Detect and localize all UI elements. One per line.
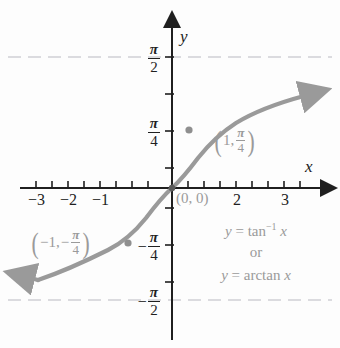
equation-argument: x [284, 267, 291, 283]
equation-argument: x [280, 223, 287, 239]
point-y-numerator: π [236, 126, 245, 141]
x-tick-label-neg2: −2 [60, 192, 77, 208]
y-tick-label-pi-over-4: π 4 [126, 116, 160, 150]
point-label-neg1-neg-pi-over-4: ( −1, − π 4 ) [30, 228, 91, 257]
equation-lhs: y [221, 267, 228, 283]
equation-equals: = [232, 267, 240, 283]
equation-function-name: arctan [244, 267, 281, 283]
marker-point-origin [169, 185, 175, 191]
x-tick-label-3: 3 [281, 192, 289, 208]
right-paren: ) [83, 231, 90, 254]
point-y-numerator: π [71, 228, 80, 243]
y-tick-label-neg-pi-over-4: − π 4 [118, 230, 160, 264]
x-tick-label-2: 2 [233, 192, 241, 208]
point-x-value: −1, [40, 235, 60, 250]
y-tick-pi2-numerator: π [148, 42, 160, 59]
y-tick-neg-pi4-numerator: π [148, 230, 160, 247]
equation-line-inverse-tan: y = tan−1 x [196, 222, 316, 239]
equation-connector-or: or [196, 245, 316, 260]
curve-left-arrow [31, 278, 38, 280]
y-tick-neg-pi2-denominator: 2 [148, 302, 160, 319]
y-tick-pi4-numerator: π [148, 116, 160, 133]
left-paren: ( [31, 231, 38, 254]
equation-exponent: −1 [266, 221, 277, 232]
equation-function-name: tan [248, 223, 266, 239]
left-paren: ( [214, 129, 221, 152]
point-y-minus: − [61, 235, 69, 250]
right-paren: ) [248, 129, 255, 152]
equation-line-arctan: y = arctan x [190, 268, 322, 283]
y-tick-neg-pi2-numerator: π [148, 285, 160, 302]
origin-point-label: (0, 0) [176, 191, 209, 206]
x-tick-label-neg1: −1 [92, 192, 109, 208]
point-y-denominator: 4 [71, 243, 80, 257]
point-x-value: 1, [223, 133, 234, 148]
y-axis-label: y [180, 28, 188, 45]
y-tick-label-neg-pi-over-2: − π 2 [118, 285, 160, 319]
x-axis-ticks [36, 181, 300, 188]
plot-canvas [0, 0, 340, 348]
y-tick-pi2-denominator: 2 [148, 59, 160, 76]
y-tick-neg-pi2-minus: − [138, 294, 147, 310]
point-y-denominator: 4 [236, 141, 245, 155]
y-tick-neg-pi4-minus: − [138, 239, 147, 255]
y-tick-pi4-denominator: 4 [148, 133, 160, 150]
marker-point-1-pi4 [185, 126, 192, 133]
point-label-1-pi-over-4: ( 1, π 4 ) [213, 126, 256, 155]
equation-equals: = [235, 223, 243, 239]
x-axis-label: x [305, 158, 313, 175]
y-tick-label-pi-over-2: π 2 [126, 42, 160, 76]
equation-lhs: y [225, 223, 232, 239]
x-tick-label-neg3: −3 [28, 192, 45, 208]
arctan-graph-figure: y x −3 −2 −1 2 3 π 2 π 4 − π 4 − π 2 (0,… [0, 0, 340, 348]
y-tick-neg-pi4-denominator: 4 [148, 247, 160, 264]
